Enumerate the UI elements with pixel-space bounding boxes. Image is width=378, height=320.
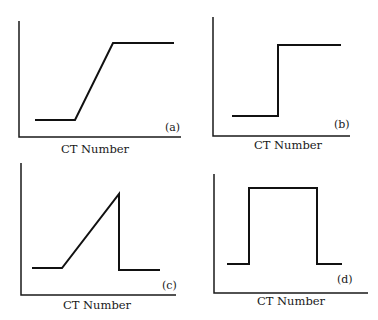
panel-c-curve xyxy=(32,194,160,270)
figure-canvas: (a) CT Number (b) CT Number (c) CT Numbe… xyxy=(0,0,378,320)
panel-d-curve xyxy=(227,188,342,264)
panel-a-curve xyxy=(35,43,174,120)
panel-d: (d) CT Number xyxy=(214,174,368,308)
panel-b-axes xyxy=(213,17,350,136)
ct-window-functions-figure: (a) CT Number (b) CT Number (c) CT Numbe… xyxy=(0,0,378,320)
panel-b-label: (b) xyxy=(334,118,350,131)
panel-a-label: (a) xyxy=(165,121,180,134)
panel-c: (c) CT Number xyxy=(21,163,177,312)
panel-b-curve xyxy=(232,45,341,116)
panel-a-xlabel: CT Number xyxy=(61,142,130,156)
panel-b-xlabel: CT Number xyxy=(254,138,323,152)
panel-a: (a) CT Number xyxy=(19,21,181,156)
panel-b: (b) CT Number xyxy=(213,17,350,152)
panel-c-xlabel: CT Number xyxy=(63,298,132,312)
panel-d-label: (d) xyxy=(337,273,353,286)
panel-c-axes xyxy=(21,163,176,295)
panel-d-xlabel: CT Number xyxy=(257,294,326,308)
panel-c-label: (c) xyxy=(162,279,177,292)
